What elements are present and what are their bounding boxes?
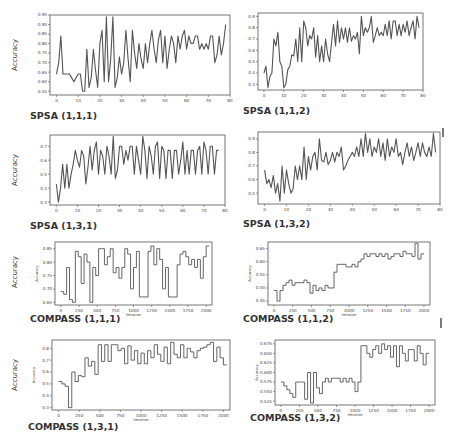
x-tick-label: 80 [222,208,228,213]
x-tick-label: 40 [141,98,147,103]
x-tick-label: 10 [76,98,82,103]
y-tick-label: 0.600 [260,370,272,375]
y-tick-label: 0.7 [248,36,255,41]
x-tick-label: 40 [341,93,347,98]
subplot-spsa-131: 0.30.40.50.60.701020304050607080Accuracy… [11,135,228,231]
x-tick-label: 750 [116,413,124,418]
x-tick-label: 60 [184,98,190,103]
x-tick-label: 80 [437,207,443,212]
x-tick-label: 500 [96,413,104,418]
subplot-compass-112: 0.450.500.550.600.6502505007501000125015… [243,242,430,324]
inner-y-axis-label: Accuracy [35,264,39,281]
y-tick-label: 0.60 [256,259,266,264]
x-tick-label: 20 [97,98,103,103]
y-tick-label: 0.5 [40,172,47,177]
x-tick-label: 1500 [165,308,176,313]
y-tick-label: 0.4 [248,70,255,75]
series-line [57,17,226,91]
x-tick-label: 10 [284,207,290,212]
x-tick-label: 2000 [424,408,435,413]
x-tick-label: 40 [138,208,144,213]
y-tick-label: 0.3 [40,200,47,205]
x-tick-label: 70 [206,98,212,103]
y-tick-label: 0.4 [42,393,49,398]
series-line [59,342,227,407]
subplot-title: COMPASS (1,1,1) [30,313,120,324]
x-tick-label: 1750 [400,308,411,313]
y-tick-label: 0.8 [42,346,49,351]
y-tick-label: 0.4 [40,186,47,191]
axes-frame [50,135,225,205]
axes-frame [258,132,440,204]
y-tick-label: 0.80 [43,260,53,265]
x-tick-label: 1250 [362,308,373,313]
x-tick-label: 30 [119,98,125,103]
subplot-compass-131: 0.30.40.50.60.70.80250500750100012501500… [11,340,230,432]
x-tick-label: 60 [180,208,186,213]
subplot-compass-132: 0.5250.5500.5750.6000.6250.6500.67502505… [250,340,435,423]
y-tick-label: 0.575 [260,379,272,384]
x-tick-label: 50 [159,208,165,213]
y-tick-label: 0.70 [43,286,53,291]
x-tick-label: 0 [55,208,58,213]
x-tick-label: 0 [55,98,58,103]
x-tick-label: 2000 [419,308,430,313]
y-tick-label: 0.75 [43,273,53,278]
subplot-title: COMPASS (1,3,2) [250,412,340,423]
y-tick-label: 0.75 [38,50,48,55]
outer-y-axis-label: Accuracy [11,359,19,391]
x-tick-label: 0 [263,207,266,212]
x-axis-label: Iteration [347,413,362,417]
y-tick-label: 0.5 [42,381,49,386]
x-tick-label: 2000 [201,308,212,313]
y-tick-label: 0.85 [43,246,53,251]
inner-y-axis-label: Accuracy [248,264,252,281]
y-tick-label: 0.550 [260,389,272,394]
y-tick-label: 0.65 [38,70,48,75]
x-tick-label: 1500 [177,413,188,418]
subplot-compass-111: 0.650.700.750.800.8502505007501000125015… [11,242,212,324]
y-tick-label: 0.5 [248,191,255,196]
subplot-spsa-112: 0.30.40.50.60.70.80.901020304050607080SP… [243,13,426,116]
series-line [281,344,429,403]
x-tick-label: 1750 [405,408,416,413]
x-tick-label: 20 [96,208,102,213]
x-tick-label: 70 [415,207,421,212]
x-tick-label: 0 [263,93,266,98]
x-tick-label: 80 [420,93,426,98]
outer-y-axis-label: Accuracy [11,256,19,288]
y-tick-label: 0.650 [260,351,272,356]
y-tick-label: 0.50 [256,285,266,290]
subplot-title: SPSA (1,3,2) [243,218,310,229]
x-tick-label: 40 [350,207,356,212]
subplot-spsa-111: 0.550.600.650.700.750.800.850.900.950102… [11,12,233,121]
x-tick-label: 70 [201,208,207,213]
y-tick-label: 0.9 [248,136,255,141]
y-tick-label: 0.85 [38,31,48,36]
x-tick-label: 80 [227,98,233,103]
x-tick-label: 20 [306,207,312,212]
x-tick-label: 30 [321,93,327,98]
subplot-title: COMPASS (1,3,1) [28,421,118,432]
series-line [264,16,419,87]
y-tick-label: 0.6 [248,48,255,53]
x-tick-label: 20 [301,93,307,98]
y-tick-label: 0.3 [42,405,49,410]
y-tick-label: 0.95 [38,12,48,17]
y-tick-label: 0.3 [248,82,255,87]
x-tick-label: 70 [400,93,406,98]
x-axis-label: Iteration [341,313,356,317]
y-tick-label: 0.675 [260,341,272,346]
x-tick-label: 30 [328,207,334,212]
x-tick-label: 1500 [381,308,392,313]
x-tick-label: 10 [281,93,287,98]
x-tick-label: 1250 [146,308,157,313]
x-tick-label: 10 [75,208,81,213]
inner-y-axis-label: Accuracy [32,366,36,383]
y-tick-label: 0.90 [38,22,48,27]
series-line [56,136,218,202]
x-tick-label: 0 [57,413,60,418]
y-tick-label: 0.6 [42,369,49,374]
y-tick-label: 0.55 [256,272,266,277]
y-tick-label: 0.6 [40,158,47,163]
